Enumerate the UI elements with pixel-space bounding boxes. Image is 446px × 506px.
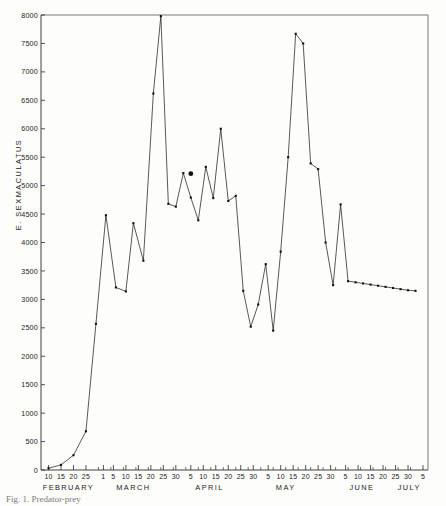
data-point-marker xyxy=(182,172,184,174)
x-tick-label: 15 xyxy=(134,473,142,480)
x-tick-label: 5 xyxy=(111,473,115,480)
data-point-marker xyxy=(377,285,379,287)
x-tick-label: 15 xyxy=(289,473,297,480)
x-tick-label: 20 xyxy=(302,473,310,480)
x-tick-label: 10 xyxy=(122,473,130,480)
data-point-marker xyxy=(115,286,117,288)
x-tick-label: 10 xyxy=(199,473,207,480)
x-tick-label: 5 xyxy=(266,473,270,480)
data-point-marker xyxy=(347,280,349,282)
x-tick-label: 20 xyxy=(69,473,77,480)
y-tick-label: 500 xyxy=(25,437,38,446)
y-tick-label: 6500 xyxy=(21,96,38,105)
y-tick-label: 3000 xyxy=(21,295,38,304)
data-point-marker xyxy=(152,92,154,94)
data-point-marker xyxy=(317,168,319,170)
data-point-marker xyxy=(160,15,162,17)
data-point-marker xyxy=(220,128,222,130)
x-tick-label: 25 xyxy=(82,473,90,480)
x-tick-label: 10 xyxy=(277,473,285,480)
x-tick-label: 25 xyxy=(391,473,399,480)
data-point-marker xyxy=(385,286,387,288)
data-point-marker xyxy=(407,289,409,291)
data-point-marker xyxy=(167,203,169,205)
x-tick-label: 10 xyxy=(354,473,362,480)
x-tick-label: 30 xyxy=(172,473,180,480)
data-point-marker xyxy=(132,222,134,224)
data-point-marker xyxy=(197,219,199,221)
data-point-marker xyxy=(72,454,74,456)
data-point-marker xyxy=(370,284,372,286)
data-point-marker xyxy=(287,156,289,158)
x-tick-label: 1 xyxy=(101,473,105,480)
month-label: APRIL xyxy=(195,483,223,492)
data-point-marker xyxy=(60,464,62,466)
x-tick-label: 15 xyxy=(366,473,374,480)
data-point-marker xyxy=(392,287,394,289)
month-label: MAY xyxy=(276,483,296,492)
y-tick-label: 2500 xyxy=(21,323,38,332)
data-point-marker xyxy=(362,282,364,284)
y-tick-label: 3500 xyxy=(21,267,38,276)
x-tick-label: 30 xyxy=(327,473,335,480)
line-chart: 0500100015002000250030003500400045005000… xyxy=(0,0,446,506)
data-point-marker xyxy=(250,326,252,328)
x-tick-label: 25 xyxy=(314,473,322,480)
data-point-marker xyxy=(227,200,229,202)
y-tick-label: 4500 xyxy=(21,210,38,219)
y-tick-label: 2000 xyxy=(21,352,38,361)
data-point-marker xyxy=(414,290,416,292)
data-point-marker xyxy=(212,197,214,199)
x-tick-label: 5 xyxy=(421,473,425,480)
y-tick-label: 7000 xyxy=(21,67,38,76)
data-point-marker xyxy=(265,263,267,265)
y-tick-label: 7500 xyxy=(21,39,38,48)
data-point-marker xyxy=(302,42,304,44)
x-tick-label: 15 xyxy=(212,473,220,480)
data-point-marker xyxy=(175,206,177,208)
x-tick-label: 30 xyxy=(249,473,257,480)
data-point-marker xyxy=(205,166,207,168)
x-tick-label: 25 xyxy=(159,473,167,480)
data-point-marker xyxy=(399,288,401,290)
y-axis-title: E. SEXMACULATUS xyxy=(14,115,23,255)
data-point-marker xyxy=(295,33,297,35)
x-tick-label: 20 xyxy=(224,473,232,480)
month-label: JULY xyxy=(398,483,421,492)
figure-caption: Fig. 1. Predator-prey xyxy=(6,494,81,506)
data-point-marker xyxy=(257,303,259,305)
x-tick-label: 25 xyxy=(237,473,245,480)
y-tick-label: 5000 xyxy=(21,181,38,190)
x-tick-label: 15 xyxy=(57,473,65,480)
data-point-marker xyxy=(355,281,357,283)
figure-container: 0500100015002000250030003500400045005000… xyxy=(0,0,446,506)
data-point-marker xyxy=(242,290,244,292)
y-tick-label: 4000 xyxy=(21,238,38,247)
month-label: FEBRUARY xyxy=(43,483,94,492)
y-tick-label: 5500 xyxy=(21,153,38,162)
y-tick-label: 1000 xyxy=(21,409,38,418)
data-point-marker xyxy=(125,290,127,292)
data-series-line xyxy=(48,16,415,468)
data-point-marker xyxy=(310,162,312,164)
y-tick-label: 0 xyxy=(34,466,38,475)
data-point-marker xyxy=(280,251,282,253)
month-label: JUNE xyxy=(349,483,374,492)
x-tick-label: 30 xyxy=(404,473,412,480)
plot-frame xyxy=(41,15,428,470)
data-point-marker xyxy=(47,467,49,469)
data-point-marker xyxy=(235,195,237,197)
data-point-marker xyxy=(85,430,87,432)
x-tick-label: 5 xyxy=(189,473,193,480)
y-tick-label: 6000 xyxy=(21,124,38,133)
x-tick-label: 20 xyxy=(379,473,387,480)
y-tick-label: 8000 xyxy=(21,11,38,20)
data-point-marker xyxy=(105,214,107,216)
data-point-marker xyxy=(340,203,342,205)
data-point-marker xyxy=(332,284,334,286)
x-tick-label: 20 xyxy=(147,473,155,480)
x-tick-label: 10 xyxy=(44,473,52,480)
data-point-marker xyxy=(325,241,327,243)
isolated-data-point xyxy=(188,171,193,176)
x-tick-label: 5 xyxy=(344,473,348,480)
